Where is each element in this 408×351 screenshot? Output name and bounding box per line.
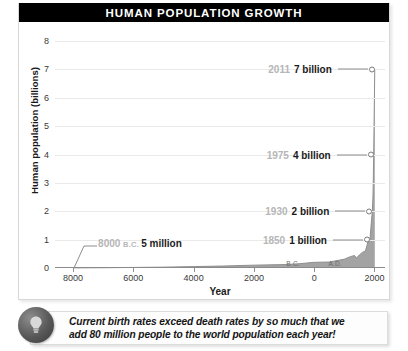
caption-text: Current birth rates exceed death rates b… xyxy=(69,315,345,341)
annotation-leader-line xyxy=(335,211,365,212)
era-label: B.C. xyxy=(286,260,299,267)
caption-line-2: add 80 million people to the world popul… xyxy=(69,328,345,341)
annotation-value: 2 billion xyxy=(292,206,330,217)
caption-box: Current birth rates exceed death rates b… xyxy=(30,311,388,345)
chart-annotation: 19754 billion xyxy=(18,149,374,160)
annotation-point-marker xyxy=(369,66,375,72)
x-axis-title: Year xyxy=(55,286,385,297)
era-label: A.D. xyxy=(329,260,342,267)
annotation-value: 7 billion xyxy=(294,64,332,75)
annotation-value: 1 billion xyxy=(289,234,327,245)
annotation-value: 4 billion xyxy=(293,149,331,160)
annotation-year: 1975 xyxy=(267,149,289,160)
annotation-point-marker xyxy=(366,208,372,214)
chart-annotation: 19302 billion xyxy=(18,206,372,217)
gridline xyxy=(55,126,385,127)
y-axis-tick-label: 0 xyxy=(44,263,49,273)
chart-annotation: 18501 billion xyxy=(18,234,370,245)
y-axis-tick-label: 8 xyxy=(44,36,49,46)
x-axis-tick-label: 4000 xyxy=(184,273,204,283)
chart-title-bar: HUMAN POPULATION GROWTH xyxy=(19,3,389,22)
lightbulb-icon xyxy=(18,307,54,343)
x-axis-tick-mark xyxy=(314,268,315,272)
x-axis-tick-label: 6000 xyxy=(123,273,143,283)
chart-area: Human population (billions) Year 0123456… xyxy=(18,22,390,300)
chart-annotation: 20117 billion xyxy=(18,64,375,75)
page-title: HUMAN POPULATION GROWTH xyxy=(106,7,303,19)
annotation-point-marker xyxy=(364,237,370,243)
y-axis-tick-label: 5 xyxy=(44,121,49,131)
annotation-year: 1850 xyxy=(263,234,285,245)
y-axis-title: Human population (billions) xyxy=(29,56,40,206)
annotation-leader-line xyxy=(337,154,367,155)
caption-line-1: Current birth rates exceed death rates b… xyxy=(69,315,345,328)
x-axis-tick-mark xyxy=(194,268,195,272)
y-axis-tick-label: 3 xyxy=(44,178,49,188)
x-axis-tick-label: 8000 xyxy=(63,273,83,283)
x-axis-tick-mark xyxy=(133,268,134,272)
gridline xyxy=(55,98,385,99)
gridline xyxy=(55,41,385,42)
annotation-leader-line xyxy=(333,239,363,240)
x-axis-tick-mark xyxy=(254,268,255,272)
annotation-point-marker xyxy=(368,152,374,158)
x-axis-tick-label: 2000 xyxy=(244,273,264,283)
x-axis-tick-mark xyxy=(374,268,375,272)
annotation-leader-line xyxy=(338,69,368,70)
x-axis-tick-label: 2000 xyxy=(364,273,384,283)
gridline xyxy=(55,183,385,184)
annotation-year: 1930 xyxy=(265,206,287,217)
screenshot-root: HUMAN POPULATION GROWTH Human population… xyxy=(0,0,408,351)
y-axis-tick-label: 6 xyxy=(44,93,49,103)
annotation-year: 2011 xyxy=(268,64,290,75)
x-axis-tick-label: 0 xyxy=(312,273,317,283)
